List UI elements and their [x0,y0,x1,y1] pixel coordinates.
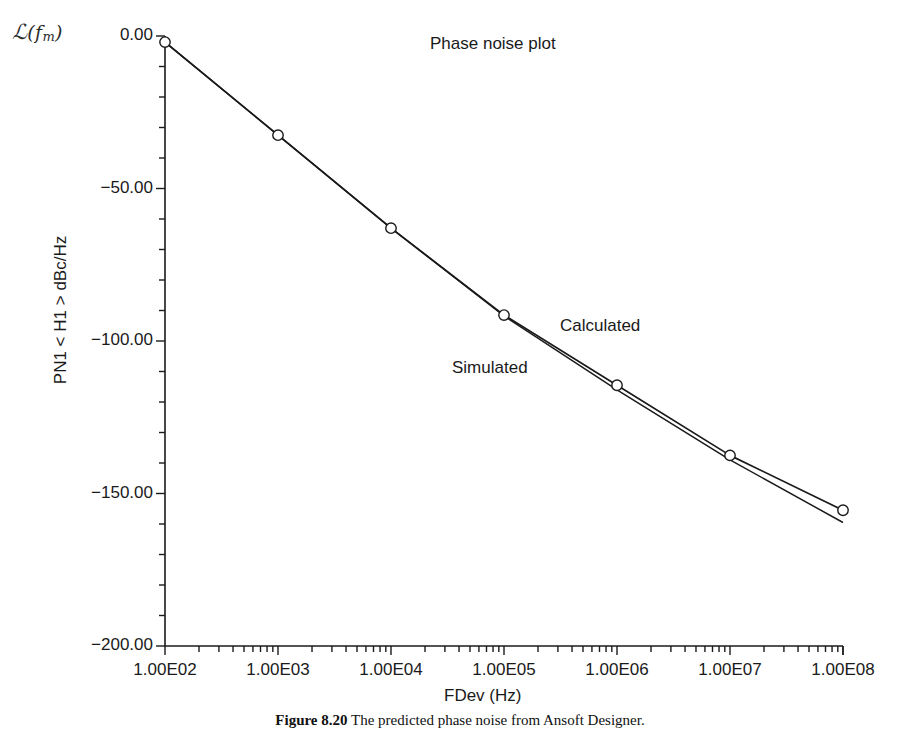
data-point-marker [612,380,622,390]
x-tick-label: 1.00E02 [105,660,225,680]
figure-caption: Figure 8.20 The predicted phase noise fr… [180,712,740,729]
annotation-simulated: Simulated [452,358,528,378]
curve-simulated [165,42,843,510]
y-axis-title: PN1 < H1 > dBc/Hz [51,180,71,440]
x-axis-title: FDev (Hz) [444,686,521,706]
x-tick-label: 1.00E08 [783,660,901,680]
x-tick-label: 1.00E06 [557,660,677,680]
caption-text: The predicted phase noise from Ansoft De… [351,712,645,728]
phase-noise-figure: ℒ(fm) Phase noise plot Calculated Simula… [0,0,901,737]
script-l-glyph: ℒ [12,20,27,44]
plot-title: Phase noise plot [430,34,556,54]
y-tick-label: −150.00 [43,483,153,503]
open-paren: ( [27,21,35,43]
data-point-marker [499,310,509,320]
caption-number: Figure 8.20 [275,712,347,728]
data-point-marker [838,505,848,515]
x-axis-ticks [165,646,843,655]
x-tick-label: 1.00E04 [331,660,451,680]
data-curves [165,42,843,522]
data-point-marker [386,223,396,233]
data-point-marker [725,450,735,460]
x-tick-label: 1.00E03 [218,660,338,680]
y-tick-label: 0.00 [43,25,153,45]
x-tick-label: 1.00E07 [670,660,790,680]
y-tick-label: −200.00 [43,635,153,655]
x-tick-label: 1.00E05 [444,660,564,680]
curve-calculated [165,42,843,522]
data-point-marker [273,130,283,140]
annotation-calculated: Calculated [560,316,640,336]
phase-noise-plot [0,0,901,737]
data-point-marker [160,37,170,47]
data-markers [160,37,848,516]
y-axis-ticks [156,36,165,646]
axis-lines [165,36,843,646]
